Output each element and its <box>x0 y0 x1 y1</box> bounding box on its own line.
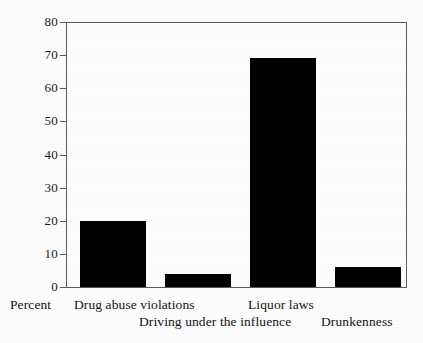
y-axis-tick-label-50: 50 <box>12 114 58 127</box>
bar-liquor-laws <box>250 58 316 287</box>
y-axis-tick-label-30: 30 <box>12 181 58 194</box>
y-axis-tick-label-10: 10 <box>12 247 58 260</box>
y-axis-tick-label-40: 40 <box>12 148 58 161</box>
y-axis-tick-label-70: 70 <box>12 48 58 61</box>
bar-drug-abuse-violations <box>80 221 146 287</box>
y-axis-tick-30 <box>60 188 67 189</box>
category-label-liquor-laws: Liquor laws <box>248 297 314 312</box>
y-axis-tick-50 <box>60 121 67 122</box>
y-axis-tick-80 <box>60 22 67 23</box>
category-label-drug-abuse-violations: Drug abuse violations <box>74 297 195 312</box>
bar-chart: 01020304050607080 Percent Drug abuse vio… <box>0 0 423 343</box>
category-label-drunkenness: Drunkenness <box>321 314 393 329</box>
bar-drunkenness <box>335 267 401 287</box>
y-axis-tick-label-80: 80 <box>12 15 58 28</box>
y-axis-tick-60 <box>60 88 67 89</box>
y-axis-tick-0 <box>60 287 67 288</box>
y-axis-tick-20 <box>60 221 67 222</box>
category-label-driving-under-the-influence: Driving under the influence <box>139 314 291 329</box>
y-axis-tick-label-0: 0 <box>12 280 58 293</box>
y-axis-tick-label-60: 60 <box>12 81 58 94</box>
y-axis-tick-40 <box>60 155 67 156</box>
y-axis-title: Percent <box>10 297 51 312</box>
y-axis-tick-label-20: 20 <box>12 214 58 227</box>
bar-driving-under-the-influence <box>165 274 231 287</box>
y-axis-tick-70 <box>60 55 67 56</box>
y-axis-tick-10 <box>60 254 67 255</box>
